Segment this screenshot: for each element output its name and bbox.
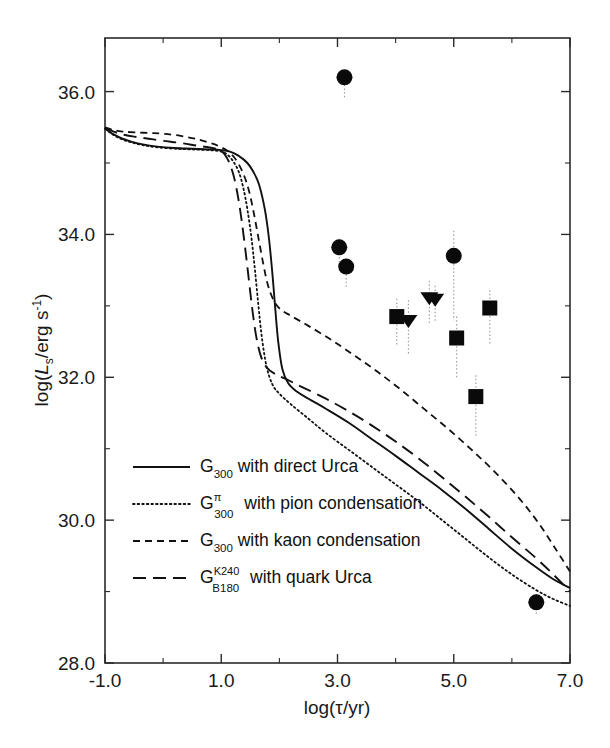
data-point-square [449,331,464,346]
y-axis-tick-labels: 28.030.032.034.036.0 [58,82,95,674]
data-point-square [389,309,404,324]
data-point-square [482,301,497,316]
model-curve [105,128,570,592]
legend-label: Gπ300 with pion condensation [200,491,422,520]
data-point-circle [446,248,462,264]
y-tick-label: 32.0 [58,367,95,388]
y-tick-label: 30.0 [58,510,95,531]
legend-label: GK240B180 with quark Urca [200,565,372,594]
data-point-circle [336,69,352,85]
legend-item: Gπ300 with pion condensation [133,491,422,520]
data-point-circle [331,239,347,255]
x-axis-tick-labels: -1.01.03.05.07.0 [89,670,584,691]
y-tick-label: 28.0 [58,653,95,674]
legend-label: G300 with kaon condensation [200,530,421,554]
model-curve [105,129,570,588]
data-point-square [468,389,483,404]
legend-label: G300 with direct Urca [200,456,359,480]
legend-item: G300 with direct Urca [133,456,359,480]
x-tick-label: 7.0 [557,670,583,691]
legend: G300 with direct UrcaGπ300 with pion con… [133,456,422,594]
x-tick-label: 1.0 [208,670,234,691]
x-tick-label: 5.0 [441,670,467,691]
data-point-circle [338,259,354,275]
data-point-circle [528,594,544,610]
svg-text:log(Ls/erg s-1): log(Ls/erg s-1) [30,294,56,407]
x-axis-title: log(τ/yr) [304,697,371,718]
y-axis-title: log(Ls/erg s-1) [30,294,56,407]
y-tick-label: 36.0 [58,82,95,103]
cooling-curve-plot: -1.01.03.05.07.0 28.030.032.034.036.0 G3… [0,0,610,748]
figure-root: -1.01.03.05.07.0 28.030.032.034.036.0 G3… [0,0,610,748]
x-tick-label: 3.0 [324,670,350,691]
y-tick-label: 34.0 [58,224,95,245]
legend-item: GK240B180 with quark Urca [133,565,372,594]
legend-item: G300 with kaon condensation [133,530,421,554]
